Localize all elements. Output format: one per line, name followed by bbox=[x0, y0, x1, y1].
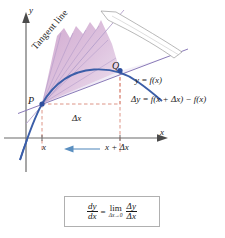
delta-x-label: Δx bbox=[72, 114, 81, 123]
motion-arrow-blue bbox=[64, 146, 100, 153]
limit-operator: lim Δx→0 bbox=[109, 204, 123, 219]
x-axis-label: x bbox=[160, 128, 164, 137]
function-label: y = f(x) bbox=[135, 76, 162, 85]
point-p-marker bbox=[39, 101, 44, 106]
delta-y-numerator: Δy bbox=[126, 202, 137, 211]
derivative-formula-box: dy dx = lim Δx→0 Δy Δx bbox=[64, 196, 160, 227]
point-q-label: Q bbox=[112, 61, 119, 71]
formula-row: dy dx = lim Δx→0 Δy Δx bbox=[65, 197, 159, 226]
dy-dx-fraction: dy dx bbox=[87, 202, 98, 222]
dx-denominator: dx bbox=[87, 211, 98, 221]
x-tick-label: x bbox=[42, 143, 46, 152]
derivative-limit-diagram: y x P Q Tangent line y = f(x) Δy = f(x +… bbox=[0, 0, 225, 238]
delta-y-label: Δy = f(x + Δx) − f(x) bbox=[131, 95, 206, 104]
y-axis-label: y bbox=[29, 6, 33, 15]
delta-x-denominator: Δx bbox=[126, 211, 137, 221]
limit-subscript: Δx→0 bbox=[109, 213, 123, 219]
delta-y-delta-x-fraction: Δy Δx bbox=[126, 202, 137, 222]
equals-sign: = bbox=[101, 207, 106, 217]
x-plus-delta-x-tick-label: x + Δx bbox=[105, 143, 129, 152]
point-p-label: P bbox=[28, 96, 34, 106]
dy-numerator: dy bbox=[87, 202, 98, 211]
